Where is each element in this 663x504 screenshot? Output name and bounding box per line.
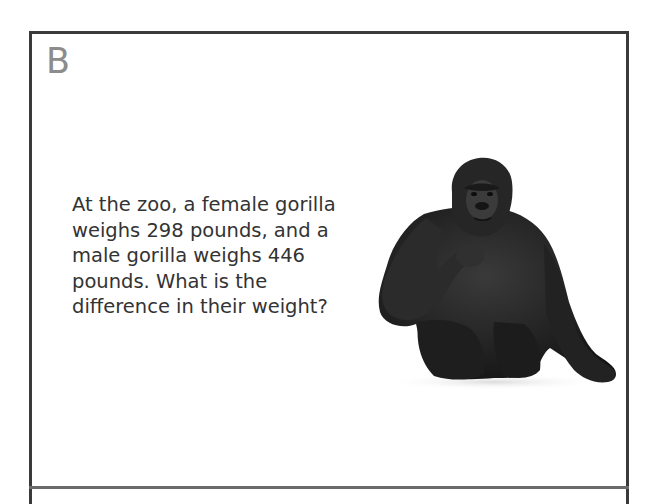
problem-text: At the zoo, a female gorilla weighs 298 … <box>72 192 372 320</box>
problem-line: difference in their weight? <box>72 294 372 320</box>
card-bottom-border <box>29 486 629 489</box>
gorilla-image <box>354 152 619 392</box>
word-problem-card: B At the zoo, a female gorilla weighs 29… <box>29 31 629 504</box>
problem-line: male gorilla weighs 446 <box>72 243 372 269</box>
problem-label: B <box>46 41 70 81</box>
problem-line: weighs 298 pounds, and a <box>72 218 372 244</box>
problem-line: pounds. What is the <box>72 269 372 295</box>
problem-line: At the zoo, a female gorilla <box>72 192 372 218</box>
